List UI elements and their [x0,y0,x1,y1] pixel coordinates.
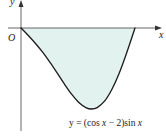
y-axis-label: y [9,0,15,7]
y-axis-arrow-icon [19,0,24,7]
origin-label: O [8,32,15,43]
shaded-area [21,28,135,109]
equation-mid: − 2)sin [106,118,137,129]
equation-var-x2: x [137,118,143,128]
x-axis-label: x [158,29,164,40]
equation-label: y = (cos x − 2)sin x [69,118,143,129]
equation-prefix: y = (cos [69,118,102,129]
graph-figure: y x O y = (cos x − 2)sin x [0,0,166,138]
